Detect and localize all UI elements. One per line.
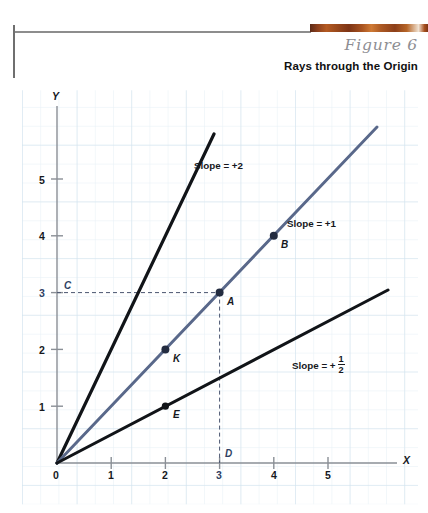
- ray-slope-half: [57, 290, 388, 463]
- header-rule-vertical: [13, 25, 15, 78]
- data-point-k: [161, 345, 169, 353]
- point-label-a: A: [227, 296, 234, 307]
- x-tick-label-2: 2: [162, 469, 168, 481]
- fraction-one-half: 1 2: [338, 355, 345, 375]
- point-label-c: C: [64, 280, 71, 291]
- figure-number: Figure 6: [345, 36, 418, 54]
- slope-annotation-2: Slope = +2: [194, 160, 243, 171]
- point-label-e: E: [173, 409, 180, 420]
- y-tick-label-2: 2: [39, 344, 45, 356]
- y-tick-label-3: 3: [39, 287, 45, 299]
- fraction-numerator: 1: [338, 355, 345, 366]
- plot-rays-and-axes: [22, 88, 418, 505]
- header-rule-horizontal: [13, 31, 311, 33]
- point-label-d: D: [225, 448, 232, 459]
- point-label-b: B: [281, 239, 288, 250]
- data-point-e: [162, 403, 169, 410]
- x-tick-label-1: 1: [108, 469, 114, 481]
- slope-annotation-1-text: Slope = +1: [287, 218, 336, 229]
- slope-annotation-half: Slope = + 1 2: [292, 355, 345, 375]
- figure-title: Rays through the Origin: [284, 60, 418, 72]
- x-tick-label-0: 0: [53, 469, 59, 481]
- decorative-accent-bar: [310, 24, 428, 32]
- y-tick-label-1: 1: [39, 401, 45, 413]
- slope-annotation-1: Slope = +1: [287, 218, 336, 229]
- data-point-a: [216, 289, 224, 297]
- slope-annotation-half-prefix: Slope = +: [292, 360, 336, 371]
- x-tick-label-4: 4: [271, 469, 277, 481]
- x-tick-label-5: 5: [325, 469, 331, 481]
- plot-area: 0 1 2 3 4 5 1 2 3 4 5 Y X A B K E C D Sl…: [22, 88, 418, 505]
- data-point-b: [270, 232, 278, 240]
- y-axis-name: Y: [52, 90, 59, 102]
- ray-slope-2: [57, 134, 214, 463]
- fraction-denominator: 2: [338, 365, 345, 375]
- slope-annotation-2-text: Slope = +2: [194, 160, 243, 171]
- x-tick-label-3: 3: [216, 469, 222, 481]
- y-tick-label-5: 5: [39, 174, 45, 186]
- y-tick-label-4: 4: [39, 230, 45, 242]
- x-axis-name: X: [403, 454, 410, 466]
- point-label-k: K: [173, 353, 180, 364]
